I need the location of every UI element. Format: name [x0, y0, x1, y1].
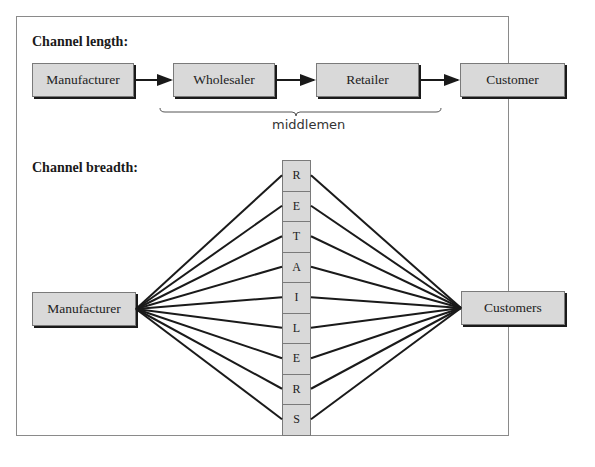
middlemen-brace — [160, 108, 441, 116]
fan-line-manufacturer-to-retailer — [136, 206, 282, 309]
fan-line-retailer-to-customers — [311, 308, 461, 358]
fan-line-retailer-to-customers — [311, 206, 461, 308]
fan-line-manufacturer-to-retailer — [136, 175, 282, 309]
breadth-fan-lines — [136, 175, 461, 419]
fan-line-manufacturer-to-retailer — [136, 309, 282, 389]
connector-layer — [0, 0, 595, 467]
fan-line-manufacturer-to-retailer — [136, 309, 282, 358]
fan-line-retailer-to-customers — [311, 308, 461, 389]
